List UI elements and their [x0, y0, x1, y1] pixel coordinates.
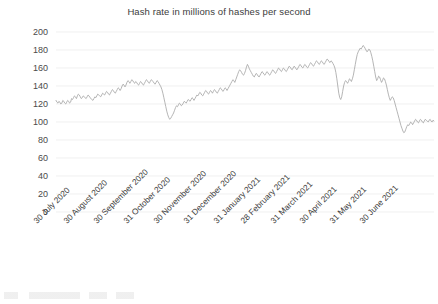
chart-figure: Hash rate in millions of hashes per seco… — [0, 0, 438, 304]
y-axis-tick-label: 100 — [14, 117, 48, 127]
y-axis-tick-label: 60 — [14, 153, 48, 163]
y-axis-tick-label: 20 — [14, 189, 48, 199]
y-axis-tick-label: 40 — [14, 171, 48, 181]
y-axis-tick-label: 200 — [14, 27, 48, 37]
page-text-fragment — [4, 292, 184, 299]
y-axis-tick-label: 180 — [14, 45, 48, 55]
y-axis-tick-label: 160 — [14, 63, 48, 73]
y-axis-tick-label: 120 — [14, 99, 48, 109]
y-axis-tick-label: 140 — [14, 81, 48, 91]
y-axis-tick-label: 80 — [14, 135, 48, 145]
series-line-path — [56, 46, 434, 133]
chart-plot-area — [0, 0, 438, 304]
line-series-hash-rate — [56, 46, 434, 133]
